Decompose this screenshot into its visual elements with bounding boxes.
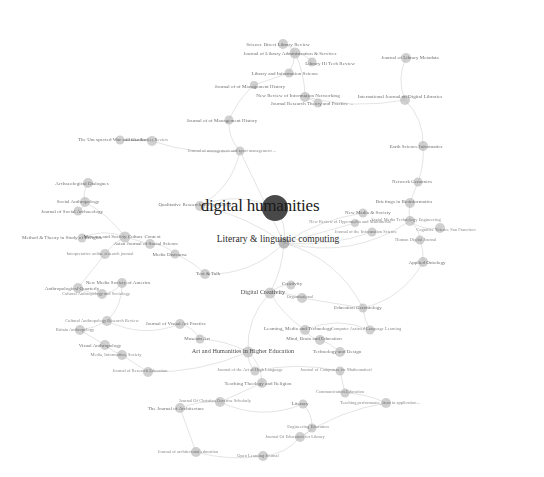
graph-node-label: New Review of Information Networking <box>256 93 339 98</box>
graph-node-label: Engineering Education <box>287 425 328 429</box>
graph-node-label: Museum and Society Culture Context <box>83 234 160 239</box>
label-layer: digital humanitiesLiterary & linguistic … <box>0 0 544 477</box>
graph-node-label: Teaching Theology and Religion <box>224 381 291 386</box>
graph-node-label: The Journal of Architecture <box>148 406 204 411</box>
graph-node-label: Mind, Brain and Education <box>286 336 342 341</box>
graph-node-label: Journal of the Art of High Language <box>217 368 283 372</box>
graph-node-label: Organisational <box>287 295 313 299</box>
graph-node-label: Interpretative online research journal <box>67 252 134 256</box>
graph-node-label: Learning, Media and Technology <box>264 326 332 331</box>
graph-node-label: Human Digital Journal <box>395 238 436 242</box>
graph-node-label: Journal of of Management History <box>215 84 286 89</box>
graph-node-label: Media, Information, Society <box>90 353 141 357</box>
graph-node-label: Anthropological Quarterly <box>45 286 99 291</box>
graph-node-label: Education Gerontology <box>334 305 382 310</box>
graph-node-label: Britain Anthropology <box>56 328 95 332</box>
graph-node-label: Library Hi Tech Review <box>305 61 355 66</box>
graph-node-label: Cultural Anthropology Research Review <box>65 319 138 323</box>
graph-node-label: Literary & linguistic computing <box>217 235 340 245</box>
graph-node-label: Archaeological Dialogues <box>55 181 108 186</box>
graph-node-label: Computer Assisted Language Learning <box>331 327 401 331</box>
graph-node-label: Qualitative Research in Psychology <box>158 202 231 207</box>
graph-node-label: Technology and Design <box>313 349 361 354</box>
graph-node-label: Journal of architectural education <box>158 450 219 454</box>
graph-node-label: Cultural Anthropology and Sociology <box>62 292 130 296</box>
graph-node-label: Journal Of Christian Doctrine Scholarly <box>179 399 251 403</box>
graph-node-label: Journal of the Information Science <box>335 230 398 234</box>
graph-node-label: Science Direct Library Review <box>246 42 310 47</box>
graph-node-label: Communication Education <box>316 390 364 394</box>
graph-node-label: Open Learning Journal <box>237 454 279 458</box>
graph-node-label: Creativity <box>282 281 303 286</box>
graph-node-label: Journal of Research Education <box>112 369 167 373</box>
graph-node-label: Museum Art <box>184 336 210 341</box>
graph-node-label: New Media & Society <box>345 210 391 215</box>
graph-node-label: Journal of Social Archaeology <box>41 209 103 214</box>
graph-node-label: Social Anthropology <box>57 199 99 204</box>
graph-node-label: Journal Research Theory and Practice ... <box>271 101 354 106</box>
graph-node-label: Journal of Visual Art Practice <box>146 321 207 326</box>
graph-node-label: Asian Journal of Social Science <box>113 241 178 246</box>
network-graph: digital humanitiesLiterary & linguistic … <box>0 0 544 477</box>
graph-node-label: Art and Humanities in Higher Education <box>192 348 294 354</box>
graph-node-label: Teaching performance, trust in applicati… <box>340 401 420 405</box>
graph-node-label: Library and Information Science <box>252 71 319 76</box>
graph-node-label: Briefings in Bioinformatics <box>376 199 432 204</box>
graph-node-label: Journal of Library Administration & Serv… <box>243 51 336 56</box>
graph-node-label: Visual Anthropology <box>79 343 122 348</box>
graph-node-label: Social Media Technology Engineering <box>371 218 440 222</box>
graph-node-label: Literacy <box>291 401 308 406</box>
graph-node-label: Gender Studies Review <box>126 138 169 142</box>
graph-node-label: Applied Ontology <box>408 260 445 265</box>
graph-node-label: Cognitive Science San Francisco <box>416 228 475 232</box>
graph-node-label: Network Genomics <box>392 179 432 184</box>
graph-node-label: New Media Society of America <box>86 280 151 285</box>
graph-node-label: Digital Creativity <box>241 289 285 295</box>
graph-node-label: Journal Of Education for Library <box>265 435 325 439</box>
graph-node-label: Journal of Library Metadata <box>381 55 439 60</box>
graph-node-label: Media Discourse <box>153 252 188 257</box>
graph-node-label: Journal of Computers for Mathematical <box>300 368 371 372</box>
graph-node-label: Text & Talk <box>196 271 220 276</box>
graph-node-label: Earth Science Informatics <box>389 144 442 149</box>
graph-node-label: International Journal on Digital Librari… <box>358 94 442 99</box>
graph-node-label: Journal of of Management History <box>187 118 258 123</box>
graph-node-label: Journal of management and sport manageme… <box>188 149 277 153</box>
